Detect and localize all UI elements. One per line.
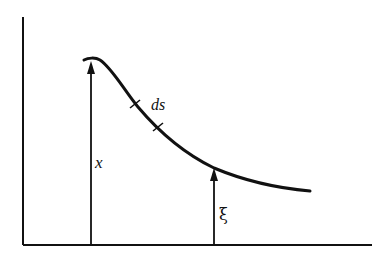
x-arrowhead-icon: [87, 61, 95, 74]
xi-label: ξ: [219, 205, 228, 224]
diagram-canvas: x ds ξ: [0, 0, 386, 263]
ds-label: ds: [151, 96, 165, 113]
curve: [84, 58, 310, 191]
x-label: x: [94, 153, 103, 172]
diagram-svg: x ds ξ: [0, 0, 386, 263]
